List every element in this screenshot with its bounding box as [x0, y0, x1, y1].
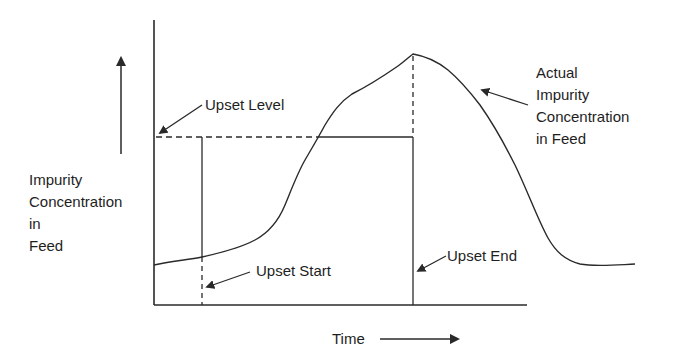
impurity-upset-diagram: Impurity Concentration in Feed Upset Lev…: [0, 0, 673, 362]
upset-start-pointer-arrow-icon: [207, 272, 250, 287]
upset-end-pointer-arrow-icon: [418, 256, 446, 271]
y-axis-label: Impurity Concentration in Feed: [29, 171, 127, 254]
actual-curve-label: Actual Impurity Concentration in Feed: [536, 64, 634, 147]
upset-level-pointer-arrow-icon: [160, 105, 202, 133]
upset-end-label: Upset End: [447, 247, 517, 264]
upset-level-label: Upset Level: [205, 96, 284, 113]
actual-curve-pointer-arrow-icon: [482, 90, 528, 105]
x-axis-label: Time: [332, 330, 365, 347]
upset-start-label: Upset Start: [256, 262, 332, 279]
